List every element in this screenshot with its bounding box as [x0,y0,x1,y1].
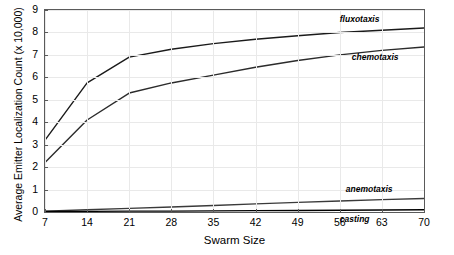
x-tick-mark [256,209,257,213]
y-tick-mark [44,145,48,146]
gridline-horizontal [45,10,424,11]
y-tick-label: 8 [14,25,38,37]
y-tick-label: 2 [14,160,38,172]
x-tick-label: 35 [193,216,233,228]
gridline-vertical [87,10,88,212]
x-tick-mark [298,209,299,213]
gridline-vertical [45,10,46,212]
gridline-vertical [298,10,299,212]
gridline-vertical [340,10,341,212]
x-tick-label: 49 [278,216,318,228]
y-tick-label: 3 [14,138,38,150]
x-tick-label: 14 [67,216,107,228]
y-tick-label: 6 [14,70,38,82]
x-tick-label: 70 [404,216,444,228]
series-label-fluxotaxis: fluxotaxis [340,14,380,24]
gridline-horizontal [45,212,424,213]
series-label-chemotaxis: chemotaxis [352,52,399,62]
gridline-vertical [424,10,425,212]
x-tick-mark [382,209,383,213]
y-tick-mark [44,122,48,123]
y-tick-mark [44,55,48,56]
y-tick-label: 5 [14,93,38,105]
series-label-anemotaxis: anemotaxis [346,184,393,194]
x-tick-mark [129,209,130,213]
gridline-horizontal [45,167,424,168]
y-tick-label: 1 [14,183,38,195]
y-tick-mark [44,10,48,11]
y-tick-mark [44,77,48,78]
y-tick-mark [44,100,48,101]
gridline-horizontal [45,32,424,33]
chart-figure: Average Emitter Localization Count (x 10… [0,0,454,255]
series-label-casting: casting [340,214,370,224]
gridline-vertical [256,10,257,212]
gridline-horizontal [45,100,424,101]
x-tick-label: 7 [25,216,65,228]
series-canvas [45,10,424,212]
y-tick-mark [44,32,48,33]
x-tick-label: 21 [109,216,149,228]
x-tick-mark [87,209,88,213]
gridline-horizontal [45,77,424,78]
gridline-vertical [171,10,172,212]
series-line-anemotaxis [45,199,424,212]
plot-area [44,9,425,213]
x-tick-label: 28 [151,216,191,228]
gridline-vertical [382,10,383,212]
y-tick-label: 7 [14,48,38,60]
gridline-vertical [213,10,214,212]
x-axis-title: Swarm Size [44,234,425,246]
gridline-horizontal [45,122,424,123]
y-tick-mark [44,167,48,168]
y-tick-label: 4 [14,115,38,127]
series-line-fluxotaxis [45,28,424,140]
gridline-vertical [129,10,130,212]
x-tick-mark [171,209,172,213]
gridline-horizontal [45,145,424,146]
x-tick-mark [213,209,214,213]
y-tick-mark [44,190,48,191]
x-tick-mark [45,209,46,213]
x-tick-label: 42 [236,216,276,228]
x-tick-mark [340,209,341,213]
x-tick-mark [424,209,425,213]
y-tick-label: 9 [14,3,38,15]
